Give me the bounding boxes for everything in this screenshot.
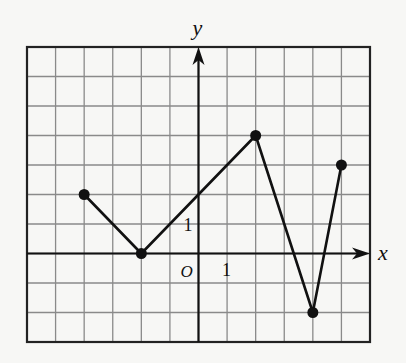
coordinate-graph: x y O 1 1 <box>0 0 406 363</box>
data-point-marker <box>307 307 318 318</box>
x-axis-label: x <box>377 240 388 265</box>
data-point-marker <box>336 160 347 171</box>
y-axis-label: y <box>191 15 203 40</box>
origin-label: O <box>181 262 193 281</box>
y-tick-label-1: 1 <box>184 215 193 235</box>
x-tick-label-1: 1 <box>222 260 231 280</box>
data-point-marker <box>79 189 90 200</box>
data-point-marker <box>136 248 147 259</box>
data-point-marker <box>250 130 261 141</box>
